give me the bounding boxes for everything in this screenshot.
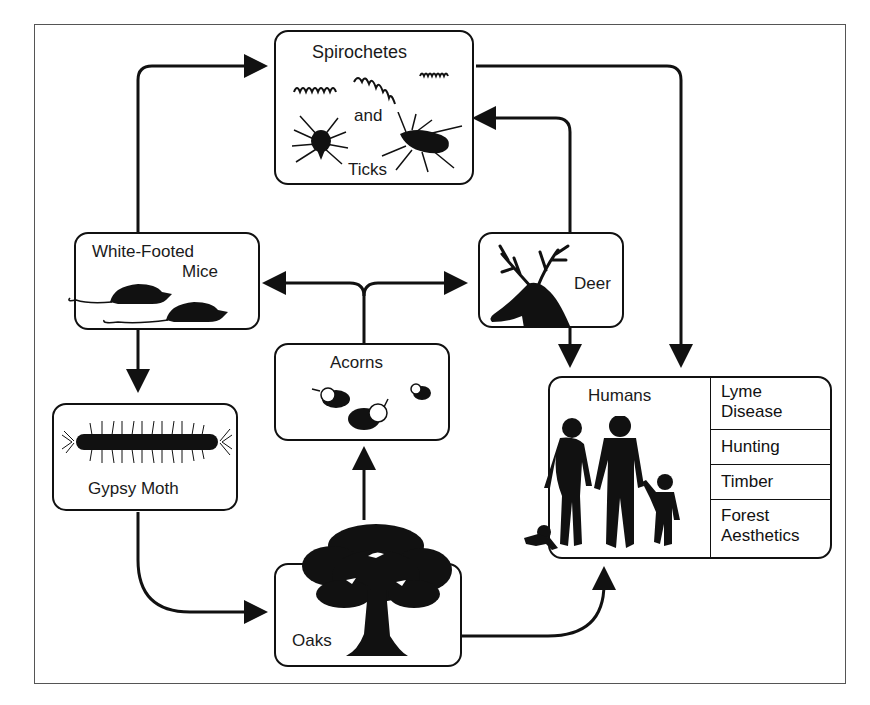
- node-humans: Humans Lyme Disease Hunting Timber: [548, 376, 832, 559]
- node-title-acorns: Acorns: [330, 353, 383, 373]
- spirochete-icon: [290, 66, 465, 106]
- impact-label: Hunting: [721, 437, 830, 457]
- impact-label: Disease: [721, 402, 830, 422]
- node-title-ticks: Ticks: [348, 160, 387, 180]
- node-spirochetes-ticks: Spirochetes and Ticks: [274, 30, 474, 185]
- acorn-icon: [306, 379, 436, 437]
- impact-lyme-disease: Lyme Disease: [711, 378, 830, 429]
- node-gypsy-moth: Gypsy Moth: [52, 403, 238, 511]
- caterpillar-icon: [62, 417, 232, 467]
- arrow-acorns-to-deer: [364, 283, 462, 296]
- arrow-deer-to-ticks: [478, 118, 570, 232]
- oak-tree-icon: [296, 520, 456, 658]
- impact-label: Timber: [721, 472, 830, 492]
- impact-hunting: Hunting: [711, 429, 830, 464]
- deer-icon: [484, 238, 584, 328]
- arrow-acorns-to-mice: [268, 283, 364, 343]
- node-white-footed-mice: White-Footed Mice: [74, 232, 260, 330]
- impact-label: Forest: [721, 506, 830, 526]
- node-title-mice-line1: White-Footed: [92, 242, 194, 262]
- node-deer: Deer: [478, 232, 624, 328]
- node-title-deer: Deer: [574, 274, 611, 294]
- impact-label: Lyme: [721, 382, 830, 402]
- impact-label: Aesthetics: [721, 526, 830, 546]
- node-title-humans: Humans: [588, 386, 651, 406]
- node-acorns: Acorns: [274, 343, 450, 441]
- tick-icon: [290, 114, 350, 169]
- impact-timber: Timber: [711, 464, 830, 499]
- arrow-moth-to-oaks: [138, 512, 262, 612]
- humans-impacts-column: Lyme Disease Hunting Timber Forest Aesth…: [710, 378, 830, 557]
- tick-icon: [376, 112, 471, 174]
- node-title-gypsy-moth: Gypsy Moth: [88, 479, 179, 499]
- impact-forest-aesthetics: Forest Aesthetics: [711, 499, 830, 557]
- node-title-spirochetes: Spirochetes: [312, 42, 407, 63]
- mouse-icon: [58, 278, 258, 330]
- arrow-mice-to-ticks: [138, 66, 262, 232]
- arrow-oaks-to-humans: [462, 572, 604, 636]
- human-family-icon: [520, 416, 710, 556]
